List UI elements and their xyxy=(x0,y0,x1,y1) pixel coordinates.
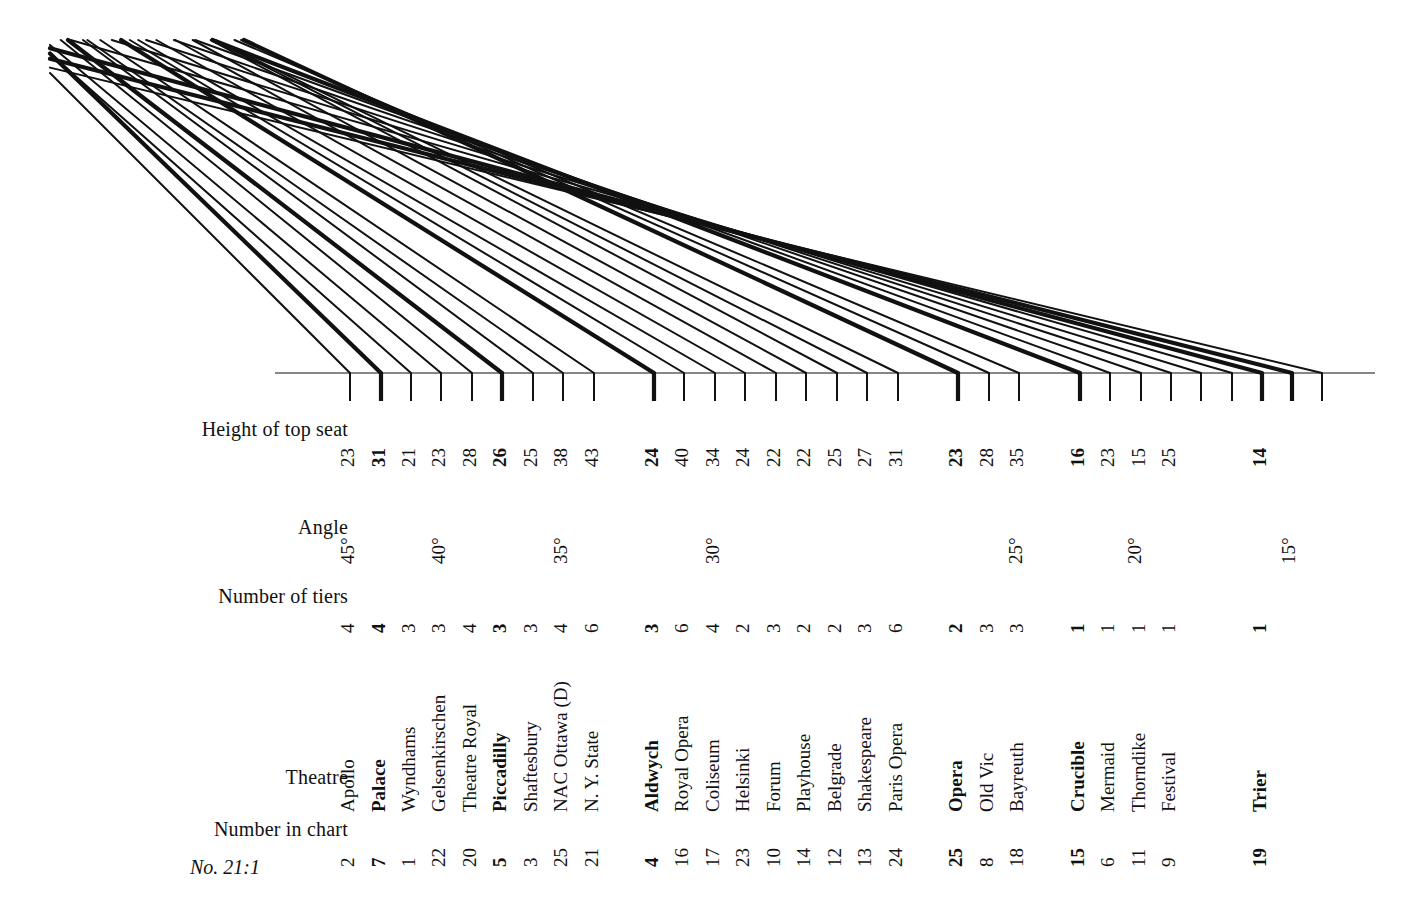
height-value-gelsenkirschen: 23 xyxy=(429,448,448,467)
height-value-helsinki: 24 xyxy=(733,448,752,467)
angle-tick-20: 20° xyxy=(1125,537,1144,564)
height-value-thorndike: 15 xyxy=(1129,448,1148,467)
tiers-value-opera: 2 xyxy=(946,624,965,634)
row-label-height-of-top-seat: Height of top seat xyxy=(68,418,348,441)
theatre-name-coliseum: Coliseum xyxy=(703,739,722,812)
chart-number-shakespeare: 13 xyxy=(855,848,874,867)
theatre-name-belgrade: Belgrade xyxy=(825,743,844,812)
sightline-extra-1 xyxy=(71,40,1232,373)
theatre-name-old-vic: Old Vic xyxy=(977,753,996,812)
tiers-value-festival: 1 xyxy=(1159,624,1178,634)
tiers-value-bayreuth: 3 xyxy=(1007,624,1026,634)
chart-number-palace: 7 xyxy=(369,858,388,868)
theatre-name-crucible: Crucible xyxy=(1068,741,1087,812)
row-label-theatre: Theatre xyxy=(68,766,348,789)
height-value-shakespeare: 27 xyxy=(855,448,874,467)
chart-number-trier: 19 xyxy=(1250,848,1269,867)
chart-number-apollo: 2 xyxy=(338,858,357,868)
figure-number: No. 21:1 xyxy=(190,856,260,879)
theatre-name-theatre-royal: Theatre Royal xyxy=(460,704,479,812)
chart-number-n-y-state: 21 xyxy=(582,848,601,867)
chart-number-nac-ottawa-d: 25 xyxy=(551,848,570,867)
sightline-nac-ottawa-d- xyxy=(87,40,563,373)
height-value-belgrade: 25 xyxy=(825,448,844,467)
tick-group xyxy=(350,373,1322,401)
chart-number-wyndhams: 1 xyxy=(399,858,418,868)
theatre-name-palace: Palace xyxy=(369,759,388,812)
chart-number-shaftesbury: 3 xyxy=(521,858,540,868)
tiers-value-shakespeare: 3 xyxy=(855,624,874,634)
height-value-paris-opera: 31 xyxy=(886,448,905,467)
tiers-value-theatre-royal: 4 xyxy=(460,624,479,634)
tiers-value-coliseum: 4 xyxy=(703,624,722,634)
theatre-name-shakespeare: Shakespeare xyxy=(855,717,874,812)
theatre-name-aldwych: Aldwych xyxy=(642,740,661,812)
height-value-coliseum: 34 xyxy=(703,448,722,467)
tiers-value-nac-ottawa-d: 4 xyxy=(551,624,570,634)
height-value-palace: 31 xyxy=(369,448,388,467)
chart-number-crucible: 15 xyxy=(1068,848,1087,867)
height-value-nac-ottawa-d: 38 xyxy=(551,448,570,467)
theatre-name-nac-ottawa-d: NAC Ottawa (D) xyxy=(551,681,570,812)
theatre-name-mermaid: Mermaid xyxy=(1098,742,1117,812)
angle-tick-35: 35° xyxy=(551,537,570,564)
height-value-wyndhams: 21 xyxy=(399,448,418,467)
chart-number-bayreuth: 18 xyxy=(1007,848,1026,867)
height-value-bayreuth: 35 xyxy=(1007,448,1026,467)
height-value-festival: 25 xyxy=(1159,448,1178,467)
sightline-shaftesbury xyxy=(83,40,533,373)
theatre-name-wyndhams: Wyndhams xyxy=(399,727,418,812)
chart-number-thorndike: 11 xyxy=(1129,849,1148,867)
tiers-value-paris-opera: 6 xyxy=(886,624,905,634)
tiers-value-crucible: 1 xyxy=(1068,624,1087,634)
sightline-shakespeare xyxy=(214,40,868,373)
chart-number-piccadilly: 5 xyxy=(490,858,509,868)
chart-number-festival: 9 xyxy=(1159,858,1178,868)
sightline-group xyxy=(50,40,1322,373)
tiers-value-royal-opera: 6 xyxy=(672,624,691,634)
chart-number-old-vic: 8 xyxy=(977,858,996,868)
tiers-value-apollo: 4 xyxy=(338,624,357,634)
chart-number-gelsenkirschen: 22 xyxy=(429,848,448,867)
chart-number-helsinki: 23 xyxy=(733,848,752,867)
height-value-shaftesbury: 25 xyxy=(521,448,540,467)
chart-number-aldwych: 4 xyxy=(642,858,661,868)
tiers-value-thorndike: 1 xyxy=(1129,624,1148,634)
theatre-name-forum: Forum xyxy=(764,761,783,812)
tiers-value-trier: 1 xyxy=(1250,624,1269,634)
tiers-value-mermaid: 1 xyxy=(1098,624,1117,634)
height-value-n-y-state: 43 xyxy=(582,448,601,467)
theatre-name-apollo: Apollo xyxy=(338,759,357,812)
chart-number-royal-opera: 16 xyxy=(672,848,691,867)
row-label-number-in-chart: Number in chart xyxy=(68,818,348,841)
height-value-opera: 23 xyxy=(946,448,965,467)
tiers-value-forum: 3 xyxy=(764,624,783,634)
chart-number-playhouse: 14 xyxy=(794,848,813,867)
angle-tick-40: 40° xyxy=(429,537,448,564)
sightline-chart: Height of top seat Angle Number of tiers… xyxy=(0,0,1407,905)
tiers-value-belgrade: 2 xyxy=(825,624,844,634)
theatre-name-playhouse: Playhouse xyxy=(794,734,813,812)
chart-number-opera: 25 xyxy=(946,848,965,867)
theatre-name-festival: Festival xyxy=(1159,752,1178,812)
row-label-angle: Angle xyxy=(68,516,348,539)
height-value-royal-opera: 40 xyxy=(672,448,691,467)
theatre-name-shaftesbury: Shaftesbury xyxy=(521,721,540,812)
theatre-name-royal-opera: Royal Opera xyxy=(672,715,691,812)
angle-tick-15: 15° xyxy=(1279,537,1298,564)
tiers-value-aldwych: 3 xyxy=(642,624,661,634)
chart-number-coliseum: 17 xyxy=(703,848,722,867)
height-value-aldwych: 24 xyxy=(642,448,661,467)
tiers-value-n-y-state: 6 xyxy=(582,624,601,634)
sightline-gelsenkirschen xyxy=(50,45,441,373)
height-value-crucible: 16 xyxy=(1068,448,1087,467)
sightline-belgrade xyxy=(211,40,837,373)
tiers-value-palace: 4 xyxy=(369,624,388,634)
tiers-value-playhouse: 2 xyxy=(794,624,813,634)
chart-number-paris-opera: 24 xyxy=(886,848,905,867)
angle-tick-45: 45° xyxy=(338,537,357,564)
height-value-theatre-royal: 28 xyxy=(460,448,479,467)
theatre-name-paris-opera: Paris Opera xyxy=(886,723,905,812)
tiers-value-wyndhams: 3 xyxy=(399,624,418,634)
theatre-name-thorndike: Thorndike xyxy=(1129,733,1148,812)
